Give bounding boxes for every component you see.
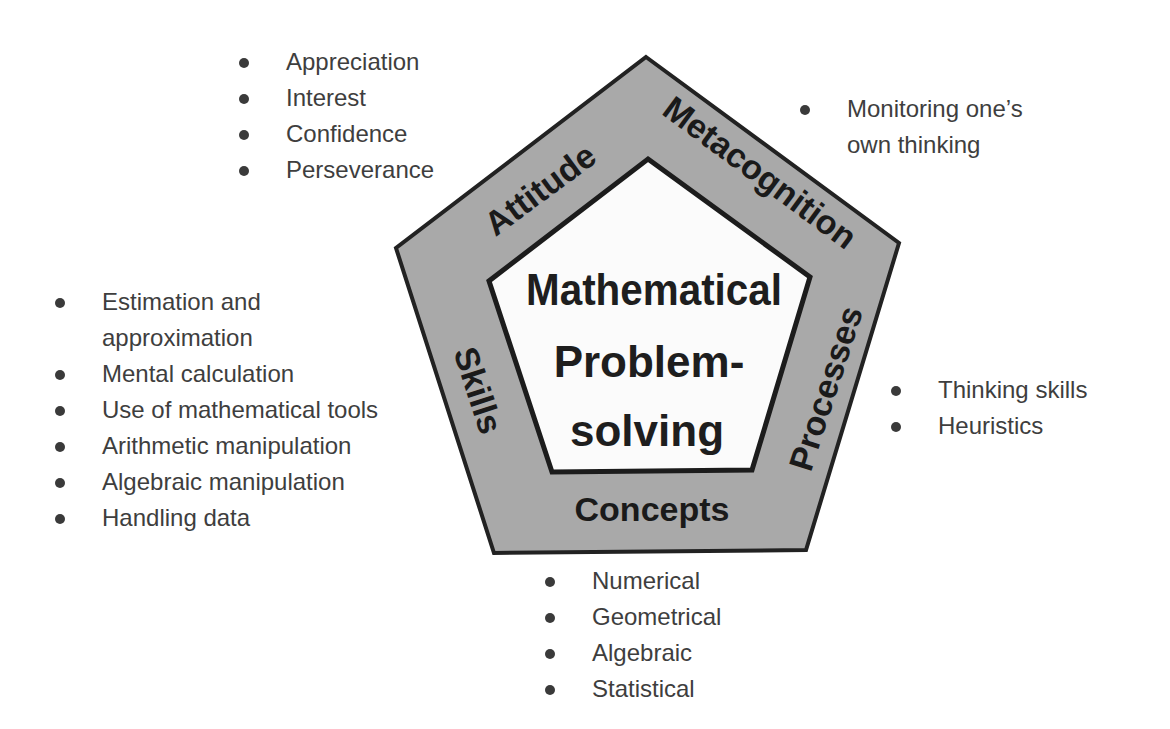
bullet-icon (55, 514, 65, 524)
list-item: Appreciation (239, 44, 434, 80)
skills-list: Estimation andapproximation Mental calcu… (55, 284, 455, 536)
bullet-icon (239, 58, 249, 68)
bullet-icon (545, 613, 555, 623)
list-item: Numerical (545, 563, 721, 599)
list-item: Monitoring one’sown thinking (800, 91, 1060, 163)
list-item: Heuristics (891, 408, 1087, 444)
list-item: Confidence (239, 116, 434, 152)
attitude-list: Appreciation Interest Confidence Perseve… (239, 44, 434, 188)
list-item: Statistical (545, 671, 721, 707)
center-title-line-2: Problem- (554, 337, 745, 386)
list-item: Geometrical (545, 599, 721, 635)
list-item-line: Monitoring one’s (847, 91, 1023, 127)
list-item-line: Estimation and (102, 284, 261, 320)
list-item: Arithmetic manipulation (55, 428, 455, 464)
bullet-icon (55, 406, 65, 416)
processes-list: Thinking skills Heuristics (891, 372, 1087, 444)
bullet-icon (545, 685, 555, 695)
bullet-icon (545, 649, 555, 659)
list-item: Estimation andapproximation (55, 284, 455, 356)
bullet-icon (239, 130, 249, 140)
bullet-icon (800, 105, 810, 115)
bullet-icon (545, 577, 555, 587)
list-item-line: own thinking (847, 127, 1023, 163)
list-item: Algebraic manipulation (55, 464, 455, 500)
bullet-icon (239, 166, 249, 176)
list-item: Use of mathematical tools (55, 392, 455, 428)
bullet-icon (55, 298, 65, 308)
bullet-icon (55, 442, 65, 452)
list-item: Algebraic (545, 635, 721, 671)
list-item: Interest (239, 80, 434, 116)
concepts-list: Numerical Geometrical Algebraic Statisti… (545, 563, 721, 707)
list-item-line: approximation (102, 320, 261, 356)
metacognition-list: Monitoring one’sown thinking (800, 91, 1060, 163)
bullet-icon (239, 94, 249, 104)
list-item: Handling data (55, 500, 455, 536)
list-item: Thinking skills (891, 372, 1087, 408)
bullet-icon (55, 478, 65, 488)
bullet-icon (891, 386, 901, 396)
list-item: Mental calculation (55, 356, 455, 392)
center-title-line-1: Mathematical (526, 265, 782, 314)
list-item: Perseverance (239, 152, 434, 188)
side-label-concepts: Concepts (575, 490, 730, 528)
bullet-icon (891, 422, 901, 432)
center-title-line-3: solving (570, 406, 724, 455)
bullet-icon (55, 370, 65, 380)
